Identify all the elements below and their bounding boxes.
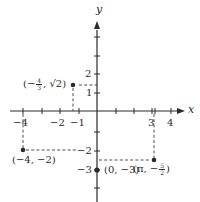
x-tick-label-neg2: −2 — [50, 118, 65, 128]
point-pi-neg5halves — [152, 158, 157, 163]
x-tick-label-4: 4 — [167, 118, 173, 128]
point-0-neg3 — [94, 167, 99, 172]
fraction-5-2: 52 — [159, 163, 165, 176]
y-axis-arrow-icon — [94, 21, 100, 29]
point-neg4thirds-sqrt2 — [71, 83, 76, 88]
point-label-neg4thirds-sqrt2: (−43, √2) — [23, 78, 66, 91]
x-axis-label: x — [188, 104, 194, 115]
y-tick-label-1: 1 — [86, 88, 92, 98]
point-neg4-neg2 — [21, 148, 26, 153]
x-tick-label-neg4: −4 — [13, 118, 28, 128]
point-label-neg4-neg2: (−4, −2) — [12, 155, 56, 165]
x-tick-label-neg1: −1 — [70, 118, 85, 128]
y-tick-label-neg3: −3 — [77, 165, 92, 175]
y-axis-label: y — [96, 4, 102, 15]
y-tick-label-neg2: −2 — [77, 146, 92, 156]
fraction-4-3: 43 — [36, 78, 42, 91]
x-tick-label-3: 3 — [148, 118, 154, 128]
point-label-pi-neg5halves: (π, −52) — [133, 163, 170, 176]
y-tick-label-2: 2 — [85, 69, 91, 79]
coordinate-plane — [0, 0, 200, 202]
x-axis-arrow-icon — [177, 108, 185, 114]
